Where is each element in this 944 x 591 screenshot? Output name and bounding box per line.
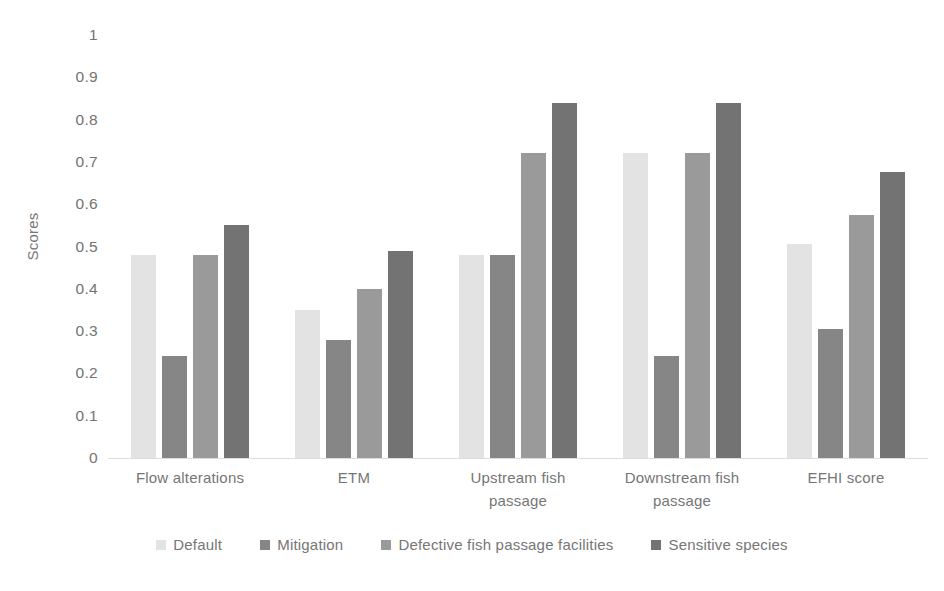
y-axis-tick: 1 [52, 26, 98, 44]
y-axis-tick: 0.3 [52, 322, 98, 340]
legend-item[interactable]: Sensitive species [651, 536, 787, 553]
bar[interactable] [716, 103, 741, 458]
x-axis-line [108, 458, 928, 459]
legend-label: Mitigation [277, 536, 343, 553]
bar[interactable] [490, 255, 515, 458]
chart-legend: DefaultMitigationDefective fish passage … [0, 536, 944, 553]
legend-swatch-icon [260, 540, 270, 550]
x-axis-label-line: passage [600, 489, 764, 512]
bar[interactable] [787, 244, 812, 458]
x-axis-label-line: Downstream fish [600, 466, 764, 489]
x-axis-label-line: Upstream fish [436, 466, 600, 489]
bar-group [764, 35, 928, 458]
bar[interactable] [162, 356, 187, 458]
y-axis-tick: 0.1 [52, 407, 98, 425]
bar[interactable] [357, 289, 382, 458]
y-axis-tick: 0.2 [52, 364, 98, 382]
bar[interactable] [521, 153, 546, 458]
y-axis-tick: 0.4 [52, 280, 98, 298]
x-axis-category-label: Flow alterations [108, 466, 272, 489]
bar[interactable] [849, 215, 874, 458]
bar-group [108, 35, 272, 458]
x-axis-label-line: EFHI score [764, 466, 928, 489]
y-axis-tick: 0.6 [52, 195, 98, 213]
legend-swatch-icon [651, 540, 661, 550]
bar[interactable] [388, 251, 413, 458]
y-axis-tick-labels: 10.90.80.70.60.50.40.30.20.10 [52, 0, 98, 591]
y-axis-tick: 0.7 [52, 153, 98, 171]
x-axis-category-label: Downstream fishpassage [600, 466, 764, 512]
bar[interactable] [131, 255, 156, 458]
legend-swatch-icon [381, 540, 391, 550]
bar-chart: Scores 10.90.80.70.60.50.40.30.20.10 Flo… [0, 0, 944, 591]
y-axis-title: Scores [24, 187, 41, 287]
legend-label: Defective fish passage facilities [398, 536, 613, 553]
y-axis-tick: 0.8 [52, 111, 98, 129]
plot-area [108, 35, 928, 458]
x-axis-category-label: Upstream fishpassage [436, 466, 600, 512]
bar-group [436, 35, 600, 458]
bar[interactable] [326, 340, 351, 458]
bar[interactable] [224, 225, 249, 458]
bar[interactable] [818, 329, 843, 458]
legend-swatch-icon [156, 540, 166, 550]
y-axis-tick: 0 [52, 449, 98, 467]
legend-item[interactable]: Defective fish passage facilities [381, 536, 613, 553]
legend-label: Default [173, 536, 222, 553]
x-axis-category-labels: Flow alterationsETMUpstream fishpassageD… [108, 466, 928, 524]
legend-label: Sensitive species [668, 536, 787, 553]
legend-item[interactable]: Mitigation [260, 536, 343, 553]
bar[interactable] [623, 153, 648, 458]
x-axis-label-line: passage [436, 489, 600, 512]
bar[interactable] [552, 103, 577, 458]
x-axis-category-label: ETM [272, 466, 436, 489]
bar[interactable] [193, 255, 218, 458]
legend-item[interactable]: Default [156, 536, 222, 553]
x-axis-category-label: EFHI score [764, 466, 928, 489]
bar[interactable] [654, 356, 679, 458]
bar[interactable] [295, 310, 320, 458]
bar[interactable] [459, 255, 484, 458]
y-axis-tick: 0.9 [52, 68, 98, 86]
x-axis-label-line: Flow alterations [108, 466, 272, 489]
y-axis-tick: 0.5 [52, 238, 98, 256]
bar-group [600, 35, 764, 458]
bar[interactable] [880, 172, 905, 458]
x-axis-label-line: ETM [272, 466, 436, 489]
bar-group [272, 35, 436, 458]
bar[interactable] [685, 153, 710, 458]
